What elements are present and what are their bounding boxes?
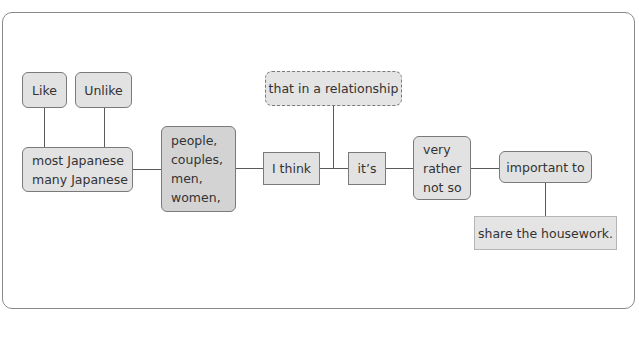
node-group-line-1: people, [171, 131, 217, 150]
node-group: people, couples, men, women, [161, 126, 236, 212]
node-i-think-label: I think [272, 159, 311, 178]
connector-group-ithink [236, 168, 263, 169]
node-unlike: Unlike [75, 72, 132, 108]
node-degree-line-1: very [423, 140, 451, 159]
node-i-think: I think [263, 152, 320, 185]
connector-subject-group [133, 169, 161, 170]
node-important: important to [499, 151, 592, 183]
node-unlike-label: Unlike [84, 81, 123, 100]
node-like-label: Like [32, 81, 57, 100]
node-subject-line-1: most Japanese [32, 151, 124, 170]
node-degree-line-3: not so [423, 178, 462, 197]
node-subject-line-2: many Japanese [32, 170, 128, 189]
node-group-line-2: couples, [171, 150, 223, 169]
connector-its-degree [386, 168, 413, 169]
node-important-label: important to [506, 158, 584, 177]
node-relationship: that in a relationship [265, 71, 402, 106]
node-like: Like [22, 72, 67, 108]
connector-unlike-subject [104, 108, 105, 148]
node-degree-line-2: rather [423, 159, 461, 178]
connector-ithink-its [320, 168, 348, 169]
connector-degree-important [471, 168, 499, 169]
node-its-label: it’s [358, 159, 377, 178]
node-group-line-3: men, [171, 169, 203, 188]
node-group-line-4: women, [171, 188, 221, 207]
connector-relationship [333, 106, 334, 168]
node-share: share the housework. [474, 216, 617, 250]
node-relationship-label: that in a relationship [269, 79, 399, 98]
node-subject: most Japanese many Japanese [22, 147, 133, 192]
node-degree: very rather not so [413, 136, 471, 200]
node-share-label: share the housework. [478, 224, 613, 243]
node-its: it’s [348, 152, 386, 185]
connector-important-share [545, 183, 546, 216]
connector-like-subject [44, 108, 45, 148]
